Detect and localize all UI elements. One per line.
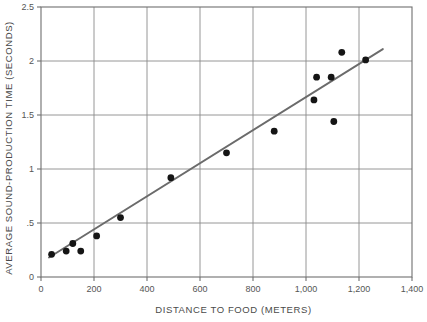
data-point (311, 96, 318, 103)
y-tick-label: 2.5 (21, 2, 34, 12)
y-tick-label: 1.5 (21, 110, 34, 120)
data-point (271, 128, 278, 135)
trend-line (49, 49, 383, 257)
x-tick-label: 600 (192, 284, 207, 294)
x-tick-label: 1,200 (348, 284, 371, 294)
chart-canvas: 02004006008001,0001,2001,4000.511.522.5D… (0, 0, 427, 322)
x-tick-label: 800 (245, 284, 260, 294)
x-axis-title: DISTANCE TO FOOD (METERS) (155, 304, 311, 315)
x-tick-label: 1,400 (401, 284, 424, 294)
data-point (328, 74, 335, 81)
x-tick-label: 1,000 (295, 284, 318, 294)
data-point (48, 251, 55, 258)
y-tick-label: 2 (29, 56, 34, 66)
data-point (330, 118, 337, 125)
data-point (167, 174, 174, 181)
data-point (77, 248, 84, 255)
scatter-plot-figure: 02004006008001,0001,2001,4000.511.522.5D… (0, 0, 427, 322)
data-point (338, 49, 345, 56)
y-tick-label: 0 (29, 272, 34, 282)
y-tick-label: .5 (26, 218, 34, 228)
data-point (362, 57, 369, 64)
data-point (93, 233, 100, 240)
data-point (117, 214, 124, 221)
x-tick-label: 200 (86, 284, 101, 294)
data-point (63, 248, 70, 255)
data-point (223, 149, 230, 156)
data-point (313, 74, 320, 81)
data-point (69, 240, 76, 247)
y-tick-label: 1 (29, 164, 34, 174)
x-tick-label: 0 (38, 284, 43, 294)
y-axis-title: AVERAGE SOUND-PRODUCTION TIME (SECONDS) (3, 21, 14, 275)
x-tick-label: 400 (139, 284, 154, 294)
